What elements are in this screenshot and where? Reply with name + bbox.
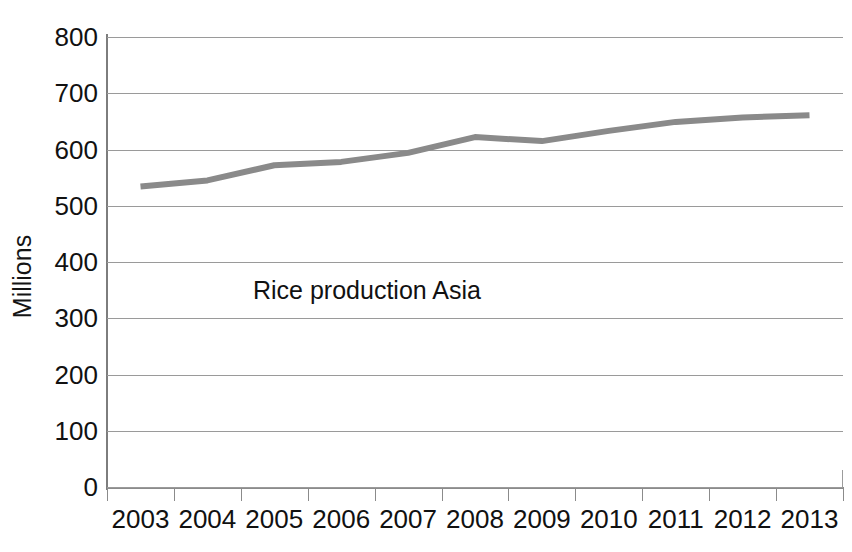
y-tick-label-600: 600 — [46, 137, 98, 163]
y-tick-label-800: 800 — [46, 24, 98, 50]
y-tick-label-200: 200 — [46, 362, 98, 388]
y-tick-label-0: 0 — [46, 474, 98, 500]
x-tick-label-2005: 2005 — [241, 504, 308, 534]
y-axis-title: Millions — [0, 0, 46, 552]
y-axis-tick-labels: 8007006005004003002001000 — [46, 0, 98, 552]
x-tick-label-2012: 2012 — [709, 504, 776, 534]
x-tick-label-2006: 2006 — [308, 504, 375, 534]
x-tick-label-2004: 2004 — [174, 504, 241, 534]
x-tick-label-2011: 2011 — [642, 504, 709, 534]
plot-area — [107, 37, 843, 487]
x-tick-label-2013: 2013 — [776, 504, 843, 534]
x-tick-label-2003: 2003 — [107, 504, 174, 534]
y-tick-label-700: 700 — [46, 80, 98, 106]
series-polyline — [141, 115, 810, 186]
gridline-0 — [107, 487, 843, 488]
y-tick-label-300: 300 — [46, 305, 98, 331]
x-tick-label-2008: 2008 — [442, 504, 509, 534]
y-tick-label-500: 500 — [46, 193, 98, 219]
chart-annotation: Rice production Asia — [253, 276, 481, 304]
line-chart: Millions 8007006005004003002001000 20032… — [0, 0, 852, 552]
y-tick-label-400: 400 — [46, 249, 98, 275]
y-axis-title-label: Millions — [9, 234, 38, 317]
series-line-rice-production-asia — [107, 37, 843, 487]
x-axis-tick-labels: 2003200420052006200720082009201020112012… — [0, 500, 852, 544]
x-tick-label-2007: 2007 — [375, 504, 442, 534]
y-tick-label-100: 100 — [46, 418, 98, 444]
x-tick-label-2009: 2009 — [508, 504, 575, 534]
x-tick-label-2010: 2010 — [575, 504, 642, 534]
